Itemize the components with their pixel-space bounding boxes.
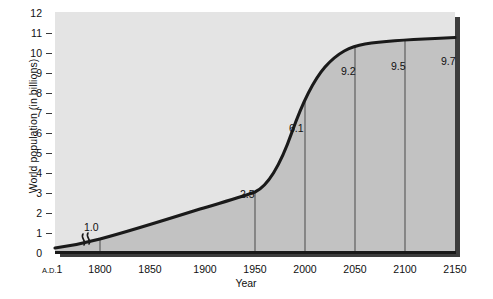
data-label-1950: 2.5 — [240, 189, 255, 200]
x-tick-label-2150: 2150 — [427, 264, 483, 275]
x-tick-label-1850: 1850 — [122, 264, 178, 275]
world-population-chart: World population (in billions) 12 11 10 … — [0, 0, 493, 299]
x-tick-label-2050: 2050 — [327, 264, 383, 275]
x-tick-label-1950: 1950 — [227, 264, 283, 275]
data-label-1800: 1.0 — [84, 222, 99, 233]
data-label-2050: 9.2 — [341, 66, 356, 77]
x-tick-label-1800: 1800 — [72, 264, 128, 275]
x-axis-title: Year — [218, 277, 274, 289]
data-label-2150: 9.7 — [441, 56, 456, 67]
x-tick-label-1900: 1900 — [177, 264, 233, 275]
x-tick-label-2000: 2000 — [277, 264, 333, 275]
plot-area-svg — [0, 0, 493, 299]
x-tick-label-2100: 2100 — [377, 264, 433, 275]
ad-year-text: 1 — [57, 263, 63, 275]
data-label-2000: 6.1 — [289, 123, 304, 134]
data-label-2100: 9.5 — [391, 61, 406, 72]
ad-prefix-text: A.D. — [42, 266, 57, 275]
